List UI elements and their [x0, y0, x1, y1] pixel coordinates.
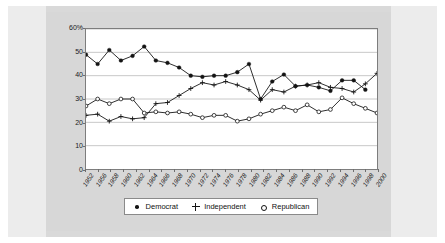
- data-point-independent: [177, 93, 182, 98]
- x-axis-tick-label: 1956: [94, 172, 108, 188]
- data-point-republican: [340, 96, 344, 100]
- x-axis-tick-label: 1990: [310, 172, 324, 188]
- x-axis-tick-label: 1980: [247, 172, 261, 188]
- x-axis-tick-mark: [365, 169, 366, 172]
- data-point-democrat: [201, 75, 205, 79]
- data-point-independent: [223, 79, 228, 84]
- y-axis-tick-label: 20: [75, 119, 83, 127]
- data-point-independent: [119, 114, 124, 119]
- data-point-independent: [95, 112, 100, 117]
- data-point-republican: [212, 113, 216, 117]
- data-point-independent: [200, 80, 205, 85]
- data-point-republican: [166, 111, 170, 115]
- x-axis-tick-mark: [327, 169, 328, 172]
- data-point-democrat: [352, 78, 356, 82]
- x-axis-tick-label: 1962: [132, 172, 146, 188]
- x-axis-tick-label: 1952: [81, 172, 95, 188]
- data-point-democrat: [317, 85, 321, 89]
- y-axis-tick-label: 40: [75, 71, 83, 79]
- x-axis-tick-mark: [378, 169, 379, 172]
- data-point-republican: [142, 111, 146, 115]
- data-point-independent: [165, 100, 170, 105]
- data-point-democrat: [177, 66, 181, 70]
- data-point-republican: [329, 108, 333, 112]
- x-axis-tick-mark: [289, 169, 290, 172]
- data-point-independent: [188, 86, 193, 91]
- x-axis-tick-mark: [212, 169, 213, 172]
- data-point-republican: [363, 106, 367, 110]
- data-point-republican: [294, 109, 298, 113]
- data-point-republican: [177, 110, 181, 114]
- y-axis: 60%50403020100: [52, 28, 83, 170]
- y-axis-tick-label: 60%: [69, 24, 83, 32]
- x-axis-tick-mark: [353, 169, 354, 172]
- x-axis-tick-mark: [340, 169, 341, 172]
- data-point-democrat: [235, 70, 239, 74]
- data-point-democrat: [189, 74, 193, 78]
- data-point-republican: [375, 111, 377, 115]
- x-axis-tick-mark: [187, 169, 188, 172]
- x-axis-tick-mark: [85, 169, 86, 172]
- x-axis-tick-label: 1958: [106, 172, 120, 188]
- x-axis-tick-label: 1996: [348, 172, 362, 188]
- data-point-republican: [352, 102, 356, 106]
- data-point-republican: [86, 104, 88, 108]
- data-point-independent: [235, 83, 240, 88]
- data-point-republican: [235, 119, 239, 123]
- plus-icon: [191, 202, 200, 211]
- x-axis-tick-label: 1970: [183, 172, 197, 188]
- data-point-democrat: [247, 62, 251, 66]
- x-axis-tick-label: 1976: [221, 172, 235, 188]
- x-axis-tick-mark: [263, 169, 264, 172]
- legend-label: Independent: [204, 202, 246, 211]
- x-axis-tick-label: 2000: [374, 172, 388, 188]
- data-point-republican: [247, 117, 251, 121]
- x-axis-tick-mark: [98, 169, 99, 172]
- plot-svg: [86, 29, 377, 169]
- chart-legend: DemocratIndependentRepublican: [124, 198, 318, 215]
- data-point-republican: [201, 116, 205, 120]
- data-point-democrat: [96, 62, 100, 66]
- legend-item-democrat[interactable]: Democrat: [133, 202, 179, 211]
- data-point-republican: [305, 103, 309, 107]
- open-circle-icon: [259, 202, 268, 211]
- x-axis-tick-mark: [174, 169, 175, 172]
- data-point-independent: [305, 83, 310, 88]
- y-axis-tick-label: 50: [75, 48, 83, 56]
- x-axis-tick-mark: [314, 169, 315, 172]
- x-axis-tick-mark: [276, 169, 277, 172]
- series-line-republican: [86, 98, 377, 121]
- x-axis-tick-label: 1988: [297, 172, 311, 188]
- x-axis-tick-label: 1978: [234, 172, 248, 188]
- x-axis-tick-label: 1982: [259, 172, 273, 188]
- y-axis-tick-label: 30: [75, 95, 83, 103]
- data-point-republican: [119, 97, 123, 101]
- plot-area: [85, 28, 378, 170]
- x-axis-tick-mark: [110, 169, 111, 172]
- legend-label: Democrat: [146, 202, 179, 211]
- x-axis-tick-mark: [123, 169, 124, 172]
- legend-item-republican[interactable]: Republican: [259, 202, 310, 211]
- x-axis-tick-mark: [149, 169, 150, 172]
- x-axis-tick-mark: [136, 169, 137, 172]
- chart-object: 60%50403020100 1952195619581960196219641…: [46, 12, 391, 231]
- data-point-democrat: [166, 61, 170, 65]
- data-point-democrat: [340, 78, 344, 82]
- data-point-independent: [86, 113, 88, 118]
- x-axis-tick-label: 1966: [157, 172, 171, 188]
- series-line-independent: [86, 73, 377, 121]
- x-axis-tick-label: 1960: [119, 172, 133, 188]
- data-point-democrat: [270, 80, 274, 84]
- x-axis-tick-label: 1968: [170, 172, 184, 188]
- data-point-democrat: [282, 73, 286, 77]
- x-axis-tick-mark: [238, 169, 239, 172]
- legend-item-independent[interactable]: Independent: [191, 202, 246, 211]
- data-point-republican: [270, 109, 274, 113]
- data-point-republican: [282, 105, 286, 109]
- data-point-democrat: [107, 48, 111, 52]
- data-point-republican: [259, 112, 263, 116]
- data-point-democrat: [142, 45, 146, 49]
- data-point-republican: [154, 110, 158, 114]
- data-point-independent: [130, 116, 135, 121]
- x-axis-tick-label: 1972: [196, 172, 210, 188]
